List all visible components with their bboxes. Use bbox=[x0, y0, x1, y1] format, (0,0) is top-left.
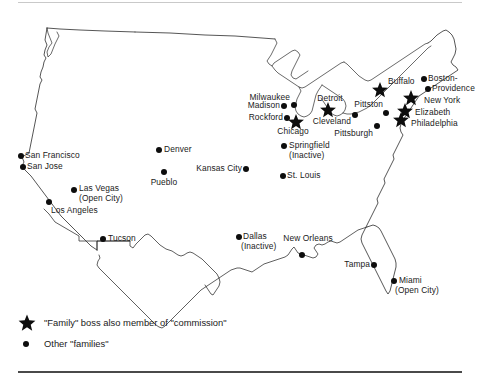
city-label-pittston: Pittston bbox=[354, 100, 383, 109]
city-label-rockford: Rockford bbox=[249, 113, 283, 122]
dot-marker-san-francisco[interactable] bbox=[18, 153, 24, 159]
city-label-tampa: Tampa bbox=[344, 260, 370, 269]
city-label-las-vegas: Las Vegas bbox=[79, 184, 119, 193]
dot-marker-pittsburgh[interactable] bbox=[374, 123, 380, 129]
dot-marker-denver[interactable] bbox=[156, 147, 162, 153]
star-marker-buffalo[interactable] bbox=[372, 82, 389, 99]
dot-marker-dallas[interactable] bbox=[236, 234, 242, 240]
city-label-philadelphia: Philadelphia bbox=[411, 119, 458, 128]
city-label-san-francisco: San Francisco bbox=[25, 151, 80, 160]
city-label-tucson: Tucson bbox=[108, 234, 136, 243]
city-label-miami-open-city: (Open City) bbox=[395, 286, 439, 295]
star-icon bbox=[18, 314, 44, 332]
dot-marker-los-angeles[interactable] bbox=[46, 199, 52, 205]
dot-marker-pittston[interactable] bbox=[383, 110, 389, 116]
city-label-san-jose: San Jose bbox=[27, 162, 63, 171]
city-label-detroit: Detroit bbox=[317, 94, 342, 103]
dot-marker-las-vegas[interactable] bbox=[71, 187, 77, 193]
dot-marker-san-jose[interactable] bbox=[20, 164, 26, 170]
legend-label-commission: "Family" boss also member of "commission… bbox=[44, 317, 227, 328]
dot-marker-pueblo[interactable] bbox=[161, 169, 167, 175]
city-label-madison: Madison bbox=[248, 101, 280, 110]
dot-marker-cleveland[interactable] bbox=[352, 112, 358, 118]
city-label-boston: Boston- bbox=[428, 74, 458, 83]
dot-marker-madison[interactable] bbox=[281, 103, 287, 109]
dot-marker-tucson[interactable] bbox=[100, 236, 106, 242]
city-label-new-york: New York bbox=[424, 96, 460, 105]
city-label-elizabeth: Elizabeth bbox=[415, 108, 450, 117]
city-label-springfield: Springfield bbox=[289, 141, 330, 150]
legend-item-commission: "Family" boss also member of "commission… bbox=[18, 312, 448, 333]
legend-item-other-families: Other "families" bbox=[18, 333, 448, 354]
city-label-miami: Miami bbox=[399, 276, 422, 285]
city-label-chicago: Chicago bbox=[277, 127, 308, 136]
legend-label-other-families: Other "families" bbox=[44, 338, 109, 349]
city-label-dallas-inactive: (Inactive) bbox=[241, 242, 276, 251]
dot-icon bbox=[18, 341, 44, 347]
city-label-las-vegas-open-city: (Open City) bbox=[79, 194, 123, 203]
city-label-new-orleans: New Orleans bbox=[283, 234, 333, 243]
dot-marker-springfield[interactable] bbox=[281, 143, 287, 149]
dot-marker-providence[interactable] bbox=[425, 86, 431, 92]
city-label-springfield-inactive: (Inactive) bbox=[289, 151, 324, 160]
city-label-kansas-city: Kansas City bbox=[196, 164, 242, 173]
city-label-denver: Denver bbox=[164, 145, 192, 154]
star-marker-philadelphia[interactable] bbox=[393, 112, 410, 129]
dot-marker-tampa[interactable] bbox=[371, 262, 377, 268]
dot-marker-new-orleans[interactable] bbox=[299, 252, 305, 258]
city-label-dallas: Dallas bbox=[243, 232, 267, 241]
city-label-cleveland: Cleveland bbox=[313, 117, 351, 126]
legend: "Family" boss also member of "commission… bbox=[18, 312, 448, 354]
city-label-providence: Providence bbox=[432, 84, 475, 93]
city-label-pueblo: Pueblo bbox=[151, 178, 178, 187]
dot-marker-kansas-city[interactable] bbox=[243, 166, 249, 172]
dot-marker-miami[interactable] bbox=[391, 278, 397, 284]
city-label-st-louis: St. Louis bbox=[287, 171, 321, 180]
city-label-buffalo: Buffalo bbox=[388, 77, 415, 86]
city-label-pittsburgh: Pittsburgh bbox=[334, 129, 373, 138]
mafia-families-map: San FranciscoSan JoseLas Vegas(Open City… bbox=[0, 0, 480, 383]
city-label-los-angeles: Los Angeles bbox=[51, 206, 98, 215]
dot-marker-st-louis[interactable] bbox=[280, 173, 286, 179]
dot-marker-milwaukee[interactable] bbox=[291, 102, 297, 108]
dot-marker-boston[interactable] bbox=[421, 76, 427, 82]
